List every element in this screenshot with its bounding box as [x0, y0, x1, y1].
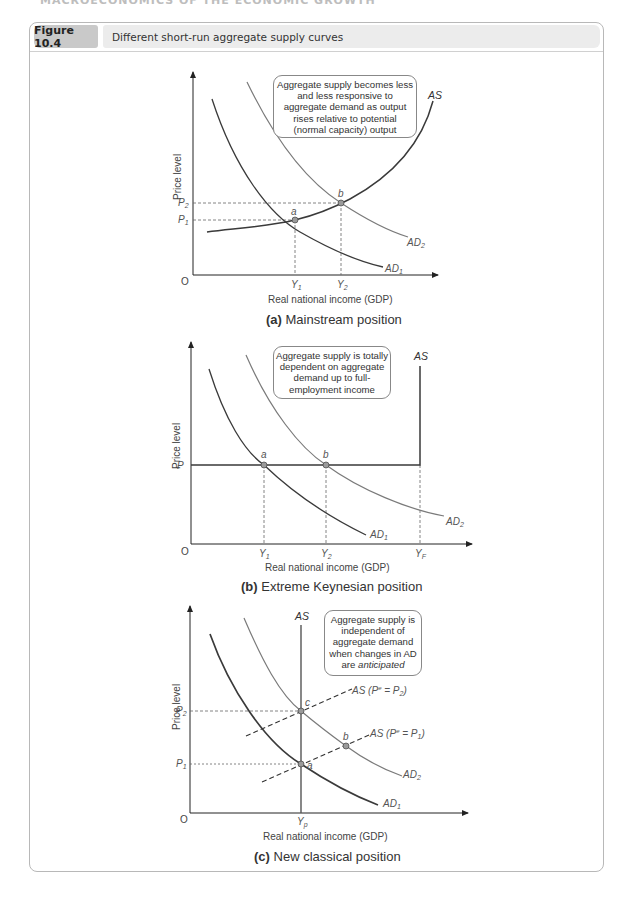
ad2-label: AD2 [445, 516, 464, 528]
x-axis-label: Real national income (GDP) [265, 562, 390, 573]
origin-label: O [181, 546, 189, 557]
point-label-a: a [261, 449, 267, 460]
x-axis-label: Real national income (GDP) [263, 831, 388, 842]
tick-y2: Y2 [337, 279, 348, 291]
tick-yp: Yp [297, 816, 308, 829]
callout-mainstream: Aggregate supply becomes less and less r… [273, 75, 417, 138]
point-label-c: c [305, 697, 310, 708]
as-pe-p1-label: AS (Pe = P1) [369, 728, 425, 740]
ad1-label: AD1 [369, 529, 388, 541]
callout-new-classical: Aggregate supply is independent of aggre… [324, 610, 422, 676]
panel-caption: (a) Mainstream position [266, 312, 402, 327]
x-axis-label: Real national income (GDP) [268, 294, 393, 305]
y-axis-label: Price level [172, 154, 183, 200]
tick-y1: Y1 [291, 279, 302, 291]
callout-keynesian: Aggregate supply is totally dependent on… [273, 346, 391, 399]
equilibrium-point-a [292, 217, 298, 223]
y-axis-label: Price level [171, 684, 182, 730]
tick-p1: P1 [176, 758, 187, 770]
as-pe-p2-label: AS (Pe = P2) [351, 685, 407, 697]
tick-y2: Y2 [321, 548, 332, 560]
point-label-b: b [338, 188, 344, 199]
as-label: AS [427, 89, 442, 101]
panel-caption: (c) New classical position [254, 849, 401, 864]
as-pe-p1-curve [262, 735, 369, 782]
tick-p1: P1 [178, 214, 189, 226]
point-label-b: b [323, 449, 329, 460]
as-label: AS [294, 610, 309, 622]
point-label-a: a [307, 760, 313, 771]
origin-label: O [180, 814, 188, 825]
as-label: AS [413, 350, 428, 362]
equilibrium-point-b [338, 200, 344, 206]
equilibrium-point-a [298, 761, 304, 767]
ad1-label: AD1 [384, 263, 403, 275]
tick-y1: Y1 [259, 548, 270, 560]
ad2-label: AD2 [406, 237, 425, 249]
origin-label: O [181, 276, 189, 287]
ad2-label: AD2 [402, 769, 421, 781]
equilibrium-point-c [298, 708, 304, 714]
y-axis-label: Price level [171, 423, 182, 469]
equilibrium-point-b [343, 743, 349, 749]
panel-c: c b a AS AS (Pe = P2) AS (Pe = P1) AD2 A… [171, 606, 468, 864]
panel-caption: (b) Extreme Keynesian position [241, 579, 422, 594]
callout-emphasis: anticipated [358, 659, 404, 670]
point-label-a: a [291, 206, 297, 217]
tick-yf: YF [415, 548, 427, 560]
point-label-b: b [343, 731, 349, 742]
ad1-label: AD1 [382, 798, 401, 810]
equilibrium-point-b [323, 462, 329, 468]
equilibrium-point-a [261, 462, 267, 468]
